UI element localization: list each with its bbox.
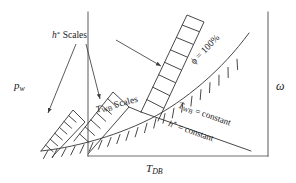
psychrometric-chart-figure: pw ω TDB h* Scales TWB Scales ϕ = 100% T… <box>0 0 296 183</box>
x-axis-subscript: DB <box>152 167 163 176</box>
x-axis-label: TDB <box>146 163 163 176</box>
leader-to-small-scale <box>48 44 76 113</box>
chart-vector-canvas <box>0 0 296 183</box>
y-axis-left-label: pw <box>14 80 25 93</box>
y-axis-right-label: ω <box>276 80 284 92</box>
leader-to-large-scale <box>116 40 161 66</box>
h-scales-annotation: h* Scales <box>52 31 87 41</box>
h-scale-large-ticks <box>147 25 199 108</box>
h-constant-connector <box>129 107 141 112</box>
saturation-curve <box>41 33 249 151</box>
y-axis-right-symbol: ω <box>276 79 284 93</box>
h-scales-text: Scales <box>60 30 87 40</box>
y-axis-left-subscript: w <box>20 84 25 93</box>
